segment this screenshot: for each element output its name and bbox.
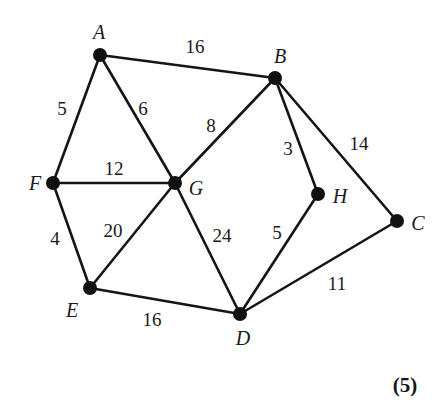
graph-edge-DH [240,194,318,314]
edge-weight-ED: 16 [143,310,162,329]
vertex-label-B: B [274,46,286,66]
vertex-label-A: A [93,22,105,42]
edge-weight-FG: 12 [105,159,124,178]
question-marks-label: (5) [393,373,418,398]
graph-canvas [0,0,444,407]
edge-weight-DH: 5 [272,223,282,242]
graph-vertex-B [268,71,282,85]
edge-weight-AF: 5 [57,99,67,118]
graph-figure-page: ABCDEFGH 16568314124202451116 (5) [0,0,444,407]
graph-edge-BG [175,78,275,183]
vertex-label-E: E [66,300,78,320]
edge-weight-BC: 14 [350,134,369,153]
edge-weight-BH: 3 [283,139,293,158]
vertex-label-H: H [333,186,347,206]
graph-vertex-F [46,176,60,190]
graph-edge-AF [53,55,100,183]
graph-vertex-H [311,187,325,201]
graph-vertex-A [93,48,107,62]
edge-weight-AG: 6 [138,99,148,118]
graph-vertex-C [390,214,404,228]
edge-weight-FE: 4 [50,229,60,248]
graph-vertex-D [233,307,247,321]
edge-weight-AB: 16 [186,37,205,56]
vertex-label-C: C [411,213,424,233]
graph-edge-BH [275,78,318,194]
graph-edge-DC [240,221,397,314]
graph-vertex-E [83,281,97,295]
vertex-label-F: F [29,173,41,193]
vertex-label-G: G [189,178,203,198]
graph-edge-ED [90,288,240,314]
edge-weight-DC: 11 [328,274,346,293]
graph-edge-GD [175,183,240,314]
graph-edge-AB [100,55,275,78]
graph-vertex-G [168,176,182,190]
edge-weight-GD: 24 [213,226,232,245]
edge-weight-BG: 8 [206,116,216,135]
vertices-group [46,48,404,321]
edge-weight-EG: 20 [104,221,123,240]
vertex-label-D: D [236,328,250,348]
